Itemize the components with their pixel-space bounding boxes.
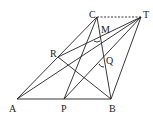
segment-RB [58,57,111,99]
geometry-diagram: C T M R Q A P B [0,0,153,117]
label-T: T [143,9,149,20]
label-P: P [61,103,67,114]
label-A: A [9,103,17,114]
label-M: M [101,24,110,35]
label-B: B [109,103,116,114]
label-Q: Q [106,55,114,66]
angle-mark-Q [99,64,104,67]
label-R: R [50,48,57,59]
label-C: C [89,9,96,20]
angle-mark-M [94,41,100,42]
segment-AC [17,17,97,99]
segment-CP [64,17,97,99]
segment-AT [17,17,141,99]
